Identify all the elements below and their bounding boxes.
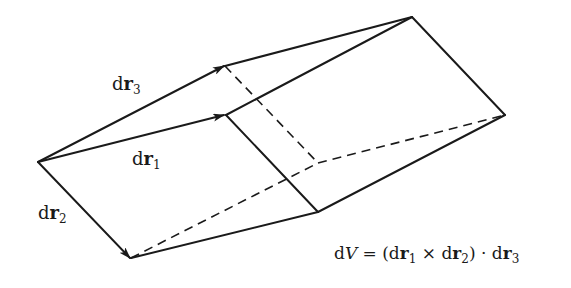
label-dr1: dr1 [132, 150, 161, 171]
label-dr3: dr3 [112, 75, 141, 96]
volume-formula: dV = (dr1 × dr2) · dr3 [334, 245, 519, 265]
edge-top-back [225, 17, 412, 66]
edge-front-vertical [226, 115, 318, 212]
edge-bottom-front [131, 212, 318, 258]
hidden-edge-back-right [318, 115, 505, 163]
edge-bottom-right [318, 115, 505, 212]
label-dr2: dr2 [38, 204, 67, 225]
hidden-edge-back-vertical [225, 66, 318, 163]
edge-right-top [412, 17, 505, 115]
vector-dr1-arrow [38, 115, 224, 162]
parallelepiped-diagram: dr3 dr1 dr2 dV = (dr1 × dr2) · dr3 [0, 0, 571, 288]
edge-top-front [226, 17, 412, 115]
hidden-edge-back-bottom [131, 163, 318, 258]
